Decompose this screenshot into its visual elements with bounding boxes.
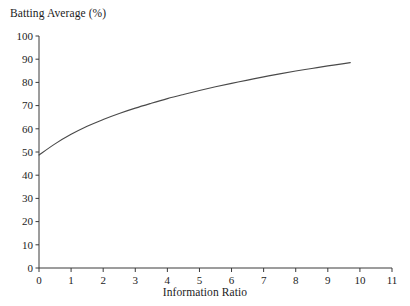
y-tick-label: 10 — [22, 239, 34, 251]
x-tick-label: 9 — [325, 274, 331, 286]
x-tick-label: 3 — [133, 274, 139, 286]
x-tick-label: 5 — [197, 274, 203, 286]
x-tick-label: 4 — [165, 274, 171, 286]
y-axis-ticks: 0102030405060708090100 — [17, 30, 40, 274]
x-tick-label: 10 — [354, 274, 366, 286]
x-axis-ticks: 01234567891011 — [36, 268, 397, 286]
y-tick-label: 70 — [22, 99, 34, 111]
y-tick-label: 90 — [22, 53, 34, 65]
batting-average-curve — [39, 63, 350, 155]
x-tick-label: 7 — [261, 274, 267, 286]
x-tick-label: 8 — [293, 274, 299, 286]
x-tick-label: 2 — [100, 274, 106, 286]
x-tick-label: 0 — [36, 274, 42, 286]
axis-lines — [39, 36, 392, 268]
y-tick-label: 40 — [22, 169, 34, 181]
x-tick-label: 11 — [387, 274, 398, 286]
y-tick-label: 30 — [22, 192, 34, 204]
y-tick-label: 60 — [22, 123, 34, 135]
x-tick-label: 1 — [68, 274, 74, 286]
x-tick-label: 6 — [229, 274, 235, 286]
y-tick-label: 50 — [22, 146, 34, 158]
chart-container: Batting Average (%) 01020304050607080901… — [0, 0, 410, 306]
y-tick-label: 100 — [17, 30, 34, 42]
y-tick-label: 0 — [28, 262, 34, 274]
y-tick-label: 20 — [22, 215, 34, 227]
y-tick-label: 80 — [22, 76, 34, 88]
x-axis-title: Information Ratio — [0, 286, 410, 298]
plot-area: 0102030405060708090100 01234567891011 — [0, 0, 410, 306]
